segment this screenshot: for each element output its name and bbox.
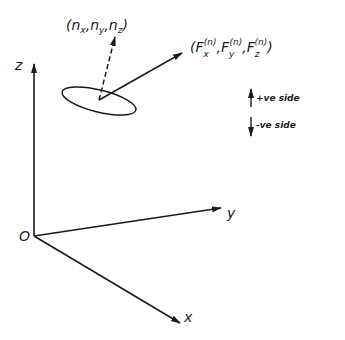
origin-label: O <box>19 228 30 244</box>
force-vector <box>99 53 182 100</box>
x-axis-label: x <box>183 309 193 325</box>
surface-element <box>59 81 138 121</box>
legend-negative-side: -ve side <box>256 120 296 130</box>
x-axis <box>34 236 180 323</box>
z-axis-label: z <box>14 57 23 73</box>
force-vector-label: (Fx(n),Fy(n),Fz(n)) <box>190 37 273 59</box>
legend-positive-side: +ve side <box>256 93 300 103</box>
normal-vector-label: (nx,ny,nz) <box>66 17 128 35</box>
normal-vector <box>99 37 115 100</box>
y-axis-label: y <box>226 205 236 221</box>
y-axis <box>34 208 221 236</box>
coordinate-diagram: O z y x (nx,ny,nz) (Fx(n),Fy(n),Fz(n)) +… <box>0 0 345 340</box>
legend: +ve side -ve side <box>251 89 300 136</box>
